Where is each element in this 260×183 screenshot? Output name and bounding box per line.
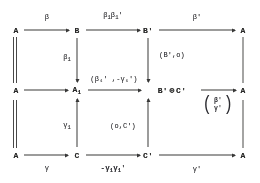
- label-vertical-o-C-prime: (o,C'): [110, 122, 136, 130]
- node-row3-col3: C': [143, 151, 153, 160]
- arrow-row2-pair: [88, 90, 141, 91]
- label-row1-beta1-beta1prime: β1β1': [103, 11, 123, 22]
- node-row2-col5: A: [240, 86, 245, 95]
- label-vertical-B-prime-o: (B',o): [159, 51, 185, 59]
- node-row3-col5: A: [240, 151, 245, 160]
- matrix-entry-bottom: γ': [214, 104, 222, 112]
- label-vertical-gamma1: γ1: [63, 121, 71, 131]
- matrix-open-paren: (: [203, 98, 212, 111]
- node-row1-col1: A: [13, 26, 18, 35]
- matrix-close-paren: ): [224, 98, 233, 111]
- node-row2-col3-biproduct: B'⊕C': [158, 86, 187, 95]
- label-row3-gamma: γ: [45, 164, 49, 172]
- label-row2-column-matrix: ( β' γ' ): [201, 97, 235, 112]
- arrow-row2-left: [24, 90, 68, 91]
- node-row2-col2: A1: [72, 85, 81, 96]
- label-vertical-beta1: β1: [63, 53, 71, 63]
- arrow-row1-beta: [24, 30, 69, 31]
- arrow-row3-gammaprime: [159, 155, 235, 156]
- identity-bar-left-lower: [13, 100, 17, 148]
- node-row1-col2: B: [74, 26, 79, 35]
- node-row3-col2: C: [74, 151, 79, 160]
- arrow-vertical-beta1: [77, 38, 78, 82]
- commutative-diagram: A B B' A β β1β1' β' A A1 B'⊕C' A (β₁' ,-…: [0, 0, 260, 183]
- identity-bar-right-lower: [243, 100, 244, 148]
- arrow-row1-beta1-beta1prime: [86, 30, 140, 31]
- matrix-entry-top: β': [214, 97, 222, 105]
- node-row1-col3: B': [143, 26, 153, 35]
- arrow-row1-betaprime: [159, 30, 235, 31]
- arrow-vertical-B-prime-o: [148, 38, 149, 82]
- node-row1-col5: A: [240, 26, 245, 35]
- identity-bar-left-upper: [13, 37, 17, 83]
- node-row2-col1: A: [13, 86, 18, 95]
- label-row1-betaprime: β': [193, 13, 202, 21]
- arrow-vertical-o-C-prime: [148, 99, 149, 147]
- identity-bar-right-upper: [243, 37, 244, 83]
- label-row2-pair: (β₁' ,-γ₁'): [90, 75, 137, 83]
- arrow-row3-gamma: [24, 155, 68, 156]
- arrow-row2-matrix: [201, 90, 236, 91]
- label-row3-neg-gamma1-gamma1prime: -γ1γ1': [101, 164, 126, 175]
- node-row3-col1: A: [13, 151, 18, 160]
- arrow-vertical-gamma1: [77, 99, 78, 147]
- label-row3-gammaprime: γ': [193, 165, 202, 173]
- arrow-row3-neg-gamma1-gamma1prime: [86, 155, 140, 156]
- label-row1-beta: β: [45, 13, 49, 21]
